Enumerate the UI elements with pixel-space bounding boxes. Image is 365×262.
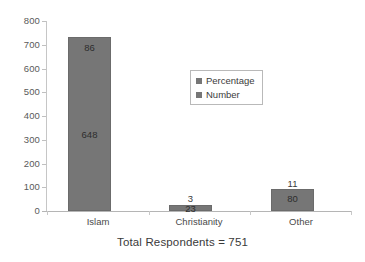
plot-area: 86 648 3 23 11 80 (47, 21, 352, 211)
bar-group-islam: 86 648 (47, 21, 149, 211)
bar-chart: 800 700 600 500 400 300 200 100 0 86 648 (0, 0, 365, 262)
bar-label-christianity-number: 23 (169, 203, 212, 214)
legend-item-number[interactable]: Number (196, 88, 262, 102)
bar-label-other-number: 80 (271, 193, 314, 204)
bar-label-other-percentage: 11 (271, 178, 314, 189)
y-tick-label-700: 700 (14, 40, 40, 50)
legend-swatch-icon-percentage (196, 78, 202, 84)
bar-label-islam-percentage: 86 (68, 42, 111, 53)
legend-item-percentage[interactable]: Percentage (196, 74, 262, 88)
y-axis-label-group: 800 700 600 500 400 300 200 100 0 (12, 0, 40, 262)
y-tick-label-600: 600 (14, 64, 40, 74)
y-tick-label-100: 100 (14, 182, 40, 192)
x-axis-label-group: Islam Christianity Other (47, 215, 352, 231)
y-tick-label-0: 0 (14, 206, 40, 216)
bar-group-christianity: 3 23 (148, 21, 250, 211)
legend-swatch-icon-number (196, 92, 202, 98)
bar-islam[interactable] (68, 37, 111, 211)
chart-legend: Percentage Number (190, 70, 263, 105)
y-tick-label-300: 300 (14, 135, 40, 145)
bar-group-other: 11 80 (250, 21, 352, 211)
legend-label-number: Number (206, 89, 240, 101)
x-category-label-christianity: Christianity (148, 215, 250, 229)
x-category-label-other: Other (250, 215, 352, 229)
y-tick-label-500: 500 (14, 87, 40, 97)
bar-label-islam-number: 648 (68, 129, 111, 140)
y-tick-label-400: 400 (14, 111, 40, 121)
legend-label-percentage: Percentage (206, 75, 255, 87)
y-tick-label-800: 800 (14, 16, 40, 26)
chart-caption: Total Respondents = 751 (0, 236, 365, 248)
y-tick-label-200: 200 (14, 159, 40, 169)
x-category-label-islam: Islam (47, 215, 149, 229)
